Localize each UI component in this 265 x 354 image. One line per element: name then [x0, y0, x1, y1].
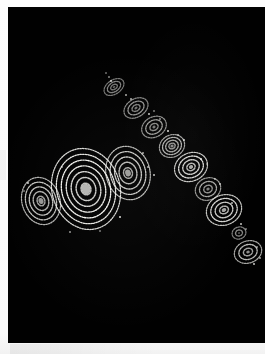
spiral-fringe-cluster-3 — [90, 132, 165, 214]
stray-speckle — [153, 174, 155, 176]
stray-speckle — [219, 183, 220, 184]
stray-speckle — [153, 110, 154, 111]
stray-speckle — [125, 94, 127, 96]
stray-speckle — [240, 223, 242, 225]
spiral-fringe-cluster-1 — [8, 162, 77, 240]
stray-speckle — [23, 190, 24, 191]
spiral-fringe-chain-8 — [220, 215, 258, 252]
stray-speckle — [110, 80, 111, 81]
stray-speckle — [130, 98, 132, 100]
stray-speckle — [119, 216, 120, 217]
stray-speckle — [148, 113, 150, 115]
stray-speckle — [200, 158, 202, 160]
photograph-frame — [0, 0, 265, 354]
stray-speckle — [259, 257, 261, 259]
stray-speckle — [142, 152, 144, 154]
stray-speckle — [183, 139, 184, 140]
spiral-fringe-chain-2 — [109, 82, 163, 133]
spiral-fringe-chain-4 — [145, 119, 200, 172]
stray-speckle — [256, 246, 258, 248]
stray-speckle — [177, 134, 179, 136]
spiral-fringe-cluster-2 — [32, 130, 140, 247]
spiral-fringe-chain-5 — [159, 136, 223, 197]
spiral-fringe-chain-7 — [191, 179, 256, 241]
stray-speckle — [61, 166, 63, 168]
stray-speckle — [27, 182, 29, 184]
stray-speckle — [105, 72, 107, 74]
spiral-fringe-chain-9 — [221, 227, 265, 278]
spiral-fringe-chain-3 — [127, 101, 181, 153]
stray-speckle — [159, 118, 161, 120]
stray-speckle — [99, 230, 101, 232]
stray-speckle — [167, 130, 168, 131]
emulsion-noise-overlay — [8, 7, 265, 343]
stray-speckle — [69, 231, 70, 232]
stray-speckle — [147, 166, 148, 167]
photographic-plate — [8, 7, 265, 343]
spiral-fringe-chain-1 — [90, 64, 138, 110]
stray-speckle — [231, 202, 233, 204]
stray-speckle — [206, 163, 208, 165]
spiral-fringe-chain-6 — [181, 163, 235, 215]
stray-speckle — [245, 228, 247, 230]
stray-speckle — [253, 263, 254, 264]
stray-speckle — [214, 178, 216, 180]
stray-speckle — [108, 76, 110, 78]
